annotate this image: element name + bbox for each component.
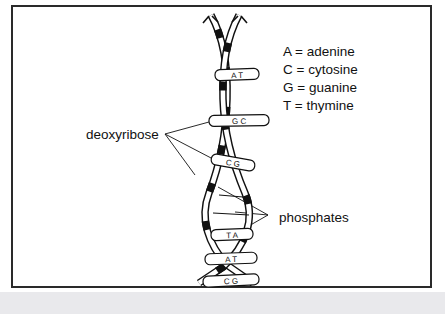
rung-label-6: C G (224, 277, 239, 287)
base-abbreviation-legend: A = adenine C = cytosine G = guanine T =… (283, 43, 358, 115)
callout-label-phosphates: phosphates (279, 210, 349, 225)
callout-label-deoxyribose: deoxyribose (86, 127, 159, 142)
legend-row-cytosine: C = cytosine (283, 61, 358, 79)
rung-label-5: A T (225, 255, 237, 264)
page-background-strip (0, 292, 445, 314)
base-pair-rung: A T (215, 68, 259, 81)
base-pair-rung: T A (211, 228, 253, 240)
rung-label-2: G C (232, 117, 247, 126)
dna-helix-illustration: A T G C C G T A A T C G (13, 7, 434, 290)
figure-page: A T G C C G T A A T C G (0, 0, 445, 314)
legend-row-guanine: G = guanine (283, 79, 358, 97)
figure-panel: A T G C C G T A A T C G (11, 5, 432, 288)
base-pair-rung: A T (205, 252, 257, 265)
rung-label-4: T A (226, 231, 239, 240)
base-pair-rung: G C (209, 114, 269, 126)
rung-label-1: A T (231, 71, 243, 80)
legend-row-thymine: T = thymine (283, 97, 358, 115)
base-pair-rung: C G (203, 274, 259, 288)
deoxyribose-leader-lines (165, 122, 213, 175)
legend-row-adenine: A = adenine (283, 43, 358, 61)
